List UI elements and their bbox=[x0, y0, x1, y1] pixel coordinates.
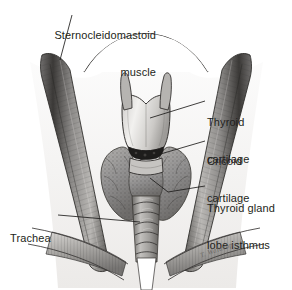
trachea bbox=[132, 196, 160, 262]
label-cricoid-cartilage-line1: Cricoid bbox=[207, 155, 249, 167]
label-sternocleidomastoid-muscle: Sternocleidomastoid muscle bbox=[4, 5, 156, 103]
label-thyroid-gland: Thyroid gland lobe isthmus bbox=[207, 178, 275, 276]
label-thyroid-cartilage-line1: Thyroid bbox=[207, 116, 249, 128]
label-trachea-line1: Trachea bbox=[10, 232, 51, 244]
label-thyroid-gland-line1: Thyroid gland bbox=[207, 202, 275, 214]
label-scm-line1: Sternocleidomastoid bbox=[4, 29, 156, 41]
label-scm-line2: muscle bbox=[4, 66, 156, 78]
label-trachea: Trachea bbox=[10, 208, 51, 269]
anatomy-illustration: Sternocleidomastoid muscle Thyroid carti… bbox=[0, 0, 292, 290]
